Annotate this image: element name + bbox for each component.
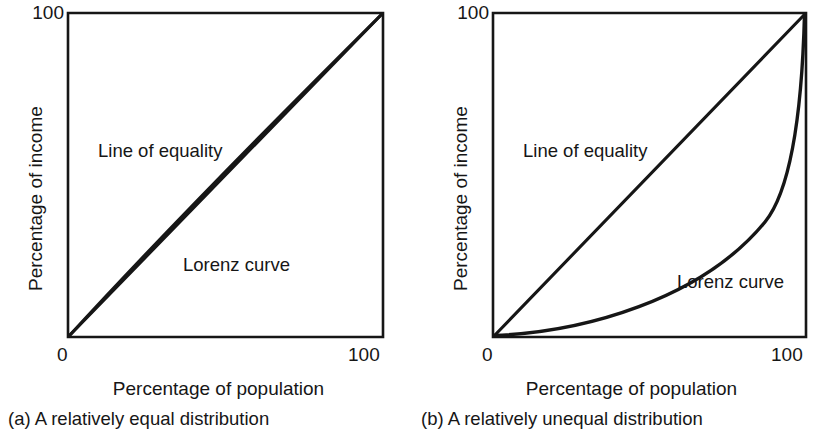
panel-b-y-axis-title: Percentage of income — [451, 106, 470, 291]
lorenz-curve-figure: 100 0 100 Percentage of income Percentag… — [0, 0, 826, 446]
panel-a-x-axis-title-text: Percentage of population — [113, 378, 324, 399]
panel-a-relatively-equal: 100 0 100 Percentage of income Percentag… — [0, 0, 413, 446]
panel-b-y-tick-100: 100 — [457, 3, 489, 22]
panel-b-x-tick-100: 100 — [771, 345, 803, 364]
panel-b-x-axis-title: Percentage of population — [413, 378, 826, 400]
panel-b-x-tick-0: 0 — [482, 345, 493, 364]
panel-a-lorenz-curve-label: Lorenz curve — [183, 255, 290, 275]
panel-a-x-tick-100: 100 — [348, 345, 380, 364]
panel-b-x-axis-title-text: Percentage of population — [526, 378, 737, 399]
panel-a-x-tick-0: 0 — [57, 345, 68, 364]
panel-b-line-of-equality-label: Line of equality — [523, 141, 647, 161]
panel-b-lorenz-curve-label: Lorenz curve — [677, 272, 784, 292]
panel-a-x-axis-title: Percentage of population — [0, 378, 413, 400]
panel-a-caption: (a) A relatively equal distribution — [8, 408, 269, 430]
panel-a-line-of-equality-label: Line of equality — [98, 141, 222, 161]
panel-a-y-axis-title: Percentage of income — [26, 106, 45, 291]
panel-a-y-tick-100: 100 — [32, 3, 64, 22]
panel-b-relatively-unequal: 100 0 100 Percentage of income Percentag… — [413, 0, 826, 446]
panel-b-caption: (b) A relatively unequal distribution — [421, 408, 703, 430]
